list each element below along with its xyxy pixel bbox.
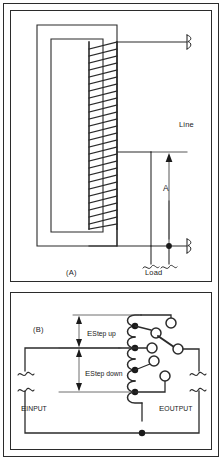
- load-label: Load: [145, 269, 163, 277]
- dim-stepup-arrow-up: [76, 316, 82, 324]
- dim-stepup-arrow-down: [76, 339, 82, 347]
- panel-a-autotransformer: Line A (A) Load: [10, 10, 212, 282]
- panel-a-schematic: [11, 11, 213, 283]
- line-bottom-terminal-squiggle: [187, 239, 191, 253]
- line-top-terminal-squiggle: [187, 35, 191, 49]
- e-input-label: EINPUT: [21, 398, 47, 414]
- e-input-sub: INPUT: [26, 405, 46, 412]
- switch-contacts: [147, 318, 176, 381]
- tap-lead-3: [135, 364, 150, 370]
- panel-a-caption: (A): [66, 269, 77, 277]
- switch-contact-4: [149, 356, 159, 366]
- e-output-bottom-terminal-squiggle: [190, 388, 206, 391]
- e-output-sub: OUTPUT: [164, 405, 192, 412]
- bottom-junction-dot: [139, 430, 145, 436]
- e-output-top-terminal-squiggle: [190, 372, 206, 375]
- dim-a-arrowhead: [166, 153, 173, 162]
- switch-contact-1: [166, 318, 176, 328]
- switch-contact-5: [160, 371, 170, 381]
- dim-stepdown-arrow-up: [76, 349, 82, 357]
- line-label: Line: [179, 121, 194, 129]
- e-step-up-sub: Step up: [92, 330, 115, 337]
- tap-lead-top: [141, 315, 171, 318]
- switch-pivot-contact: [173, 344, 183, 354]
- e-step-down-label: EStep down: [85, 363, 122, 379]
- e-output-top-lead: [183, 349, 199, 371]
- panel-b-caption: (B): [33, 326, 44, 334]
- e-step-down-sub: Step down: [90, 370, 122, 377]
- e-input-bottom-terminal-squiggle: [18, 388, 34, 391]
- e-input-top-terminal-squiggle: [18, 372, 34, 375]
- switch-contact-3: [147, 343, 157, 353]
- e-step-up-label: EStep up: [87, 323, 116, 339]
- dim-stepdown-arrow-down: [76, 383, 82, 391]
- panel-b-tapped-transformer: (B) EStep up EStep down EINPUT EOUTPUT: [10, 292, 212, 450]
- switch-wiper-blade: [158, 336, 174, 347]
- dimension-a-label: A: [163, 184, 169, 193]
- load-right-terminal-squiggle: [161, 265, 177, 268]
- junction-dot: [166, 243, 172, 249]
- tap-lead-bottom: [135, 381, 165, 392]
- e-output-label: EOUTPUT: [159, 398, 192, 414]
